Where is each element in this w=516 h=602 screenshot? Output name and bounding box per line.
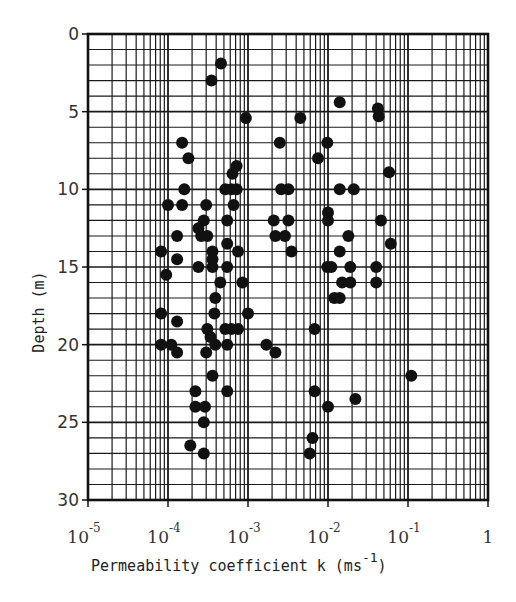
- data-point: [232, 323, 244, 335]
- data-point: [160, 269, 172, 281]
- data-point: [206, 75, 218, 87]
- x-tick-label: 1: [483, 527, 494, 547]
- data-point: [221, 339, 233, 351]
- data-point: [214, 277, 226, 289]
- data-point: [199, 401, 211, 413]
- data-point: [155, 246, 167, 258]
- x-tick-base: 10: [147, 527, 169, 547]
- data-point: [342, 230, 354, 242]
- data-point: [198, 416, 210, 428]
- x-tick-base: 10: [67, 527, 89, 547]
- y-tick-label: 15: [57, 257, 79, 277]
- data-point: [334, 246, 346, 258]
- y-tick-label: 10: [57, 179, 79, 199]
- data-point: [385, 238, 397, 250]
- data-point: [192, 261, 204, 273]
- data-point: [232, 246, 244, 258]
- data-point: [171, 230, 183, 242]
- data-point: [242, 308, 254, 320]
- data-point: [198, 447, 210, 459]
- data-point: [322, 214, 334, 226]
- data-point: [268, 214, 280, 226]
- data-point: [322, 401, 334, 413]
- data-point: [207, 370, 219, 382]
- data-point: [334, 96, 346, 108]
- x-axis-title-main: Permeability coefficient k (ms: [91, 557, 362, 575]
- data-point: [162, 199, 174, 211]
- x-tick-label: 10-2: [307, 521, 340, 547]
- x-axis: 10-510-410-310-210-11: [67, 500, 493, 547]
- x-tick-label: 10-1: [387, 521, 420, 547]
- y-axis-title: Depth (m): [30, 271, 48, 352]
- data-point: [189, 385, 201, 397]
- data-point: [221, 261, 233, 273]
- data-point: [309, 323, 321, 335]
- x-tick-base: 10: [307, 527, 329, 547]
- x-tick-label: 10-5: [67, 521, 100, 547]
- data-point: [176, 137, 188, 149]
- data-point: [325, 261, 337, 273]
- data-point: [269, 346, 281, 358]
- x-axis-title-close: ): [378, 557, 387, 575]
- data-point: [184, 440, 196, 452]
- data-point: [155, 308, 167, 320]
- y-tick-label: 0: [68, 24, 79, 44]
- data-point: [227, 168, 239, 180]
- y-tick-label: 5: [68, 102, 79, 122]
- data-point: [279, 230, 291, 242]
- data-point: [176, 199, 188, 211]
- data-point: [309, 385, 321, 397]
- data-point: [221, 385, 233, 397]
- x-tick-exponent: -4: [169, 521, 181, 535]
- x-tick-label: 10-3: [227, 521, 260, 547]
- y-axis: 051015202530: [57, 24, 88, 510]
- data-point: [334, 292, 346, 304]
- data-point: [375, 214, 387, 226]
- data-point: [307, 432, 319, 444]
- x-tick-exponent: -2: [329, 521, 341, 535]
- data-point: [236, 277, 248, 289]
- scatter-chart: 051015202530 10-510-410-310-210-11 Depth…: [0, 0, 516, 602]
- data-point: [209, 339, 221, 351]
- data-point: [405, 370, 417, 382]
- data-point: [370, 277, 382, 289]
- data-point: [201, 230, 213, 242]
- data-point: [231, 183, 243, 195]
- data-point: [370, 261, 382, 273]
- data-point: [286, 246, 298, 258]
- x-tick-label: 10-4: [147, 521, 181, 547]
- data-point: [171, 253, 183, 265]
- x-tick-exponent: -1: [409, 521, 421, 535]
- data-point: [344, 261, 356, 273]
- data-point: [304, 447, 316, 459]
- data-point: [312, 152, 324, 164]
- data-point: [228, 199, 240, 211]
- data-point: [221, 238, 233, 250]
- x-tick-base: 10: [387, 527, 409, 547]
- data-point: [348, 183, 360, 195]
- data-point: [215, 58, 227, 70]
- y-tick-label: 30: [57, 490, 79, 510]
- data-point: [282, 183, 294, 195]
- data-point: [200, 346, 212, 358]
- data-point: [294, 112, 306, 124]
- data-point: [171, 315, 183, 327]
- data-point: [321, 137, 333, 149]
- x-tick-base: 10: [227, 527, 249, 547]
- x-tick-exponent: -3: [249, 521, 261, 535]
- data-point: [178, 183, 190, 195]
- y-tick-label: 20: [57, 335, 79, 355]
- data-point: [200, 199, 212, 211]
- data-point: [182, 152, 194, 164]
- data-point: [207, 261, 219, 273]
- data-point: [344, 277, 356, 289]
- plot-grid: [88, 34, 488, 500]
- data-point: [349, 393, 361, 405]
- data-point: [209, 292, 221, 304]
- data-point: [383, 166, 395, 178]
- data-point: [240, 112, 252, 124]
- data-point: [334, 183, 346, 195]
- data-point: [221, 214, 233, 226]
- x-axis-title-superscript: -1: [362, 550, 378, 565]
- data-point: [282, 214, 294, 226]
